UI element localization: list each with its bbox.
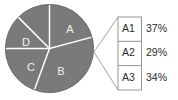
pie-chart-figure: A D C B A1 37% A2 29% A3 34% [0,0,178,100]
detail-table-cell-segment: A1 [122,22,135,34]
pie-chart: A D C B [6,4,94,92]
pie-label-d: D [22,36,30,48]
detail-table-cell-segment: A3 [122,71,135,83]
figure-canvas: A D C B A1 37% A2 29% A3 34% [0,0,178,100]
pie-label-c: C [27,61,35,73]
detail-table-cell-percent: 29% [146,46,167,58]
pie-label-b: B [57,65,64,77]
detail-table-cell-percent: 37% [146,22,167,34]
pie-label-a: A [66,23,74,35]
detail-table-cell-percent: 34% [146,71,167,83]
detail-table-cell-segment: A2 [122,46,135,58]
